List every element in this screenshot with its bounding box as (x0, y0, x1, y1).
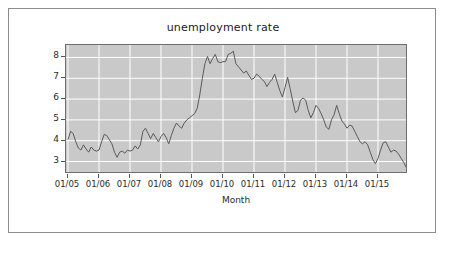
x-tick-mark (160, 174, 161, 178)
x-tick-label: 01/07 (112, 179, 146, 189)
y-tick-mark (61, 56, 65, 57)
x-tick-label: 01/14 (329, 179, 363, 189)
y-tick-label: 6 (37, 92, 59, 102)
plot-canvas (66, 45, 407, 173)
x-tick-label: 01/13 (298, 179, 332, 189)
chart-page: unemployment rate 345678 01/0501/0601/07… (0, 0, 466, 261)
x-tick-mark (67, 174, 68, 178)
y-tick-mark (61, 77, 65, 78)
x-tick-label: 01/08 (143, 179, 177, 189)
x-tick-label: 01/09 (174, 179, 208, 189)
chart-title: unemployment rate (9, 21, 437, 34)
x-tick-mark (253, 174, 254, 178)
y-tick-label: 4 (37, 134, 59, 144)
x-tick-label: 01/10 (205, 179, 239, 189)
y-tick-mark (61, 119, 65, 120)
x-tick-mark (222, 174, 223, 178)
y-tick-label: 7 (37, 71, 59, 81)
figure-frame: unemployment rate 345678 01/0501/0601/07… (8, 8, 436, 233)
y-tick-mark (61, 140, 65, 141)
x-tick-label: 01/15 (360, 179, 394, 189)
x-tick-mark (377, 174, 378, 178)
y-tick-label: 3 (37, 155, 59, 165)
x-tick-label: 01/12 (267, 179, 301, 189)
x-tick-mark (284, 174, 285, 178)
x-tick-label: 01/11 (236, 179, 270, 189)
y-tick-label: 5 (37, 113, 59, 123)
y-tick-mark (61, 161, 65, 162)
x-axis-title: Month (65, 195, 407, 205)
horizontal-gridlines (66, 57, 407, 161)
x-tick-label: 01/05 (50, 179, 84, 189)
x-tick-label: 01/06 (81, 179, 115, 189)
y-tick-label: 8 (37, 50, 59, 60)
x-tick-mark (129, 174, 130, 178)
plot-area (65, 44, 407, 173)
vertical-gridlines (68, 45, 378, 173)
x-tick-mark (315, 174, 316, 178)
unemployment-rate-line (68, 51, 406, 168)
x-tick-mark (98, 174, 99, 178)
x-tick-mark (346, 174, 347, 178)
y-tick-mark (61, 98, 65, 99)
x-tick-mark (191, 174, 192, 178)
